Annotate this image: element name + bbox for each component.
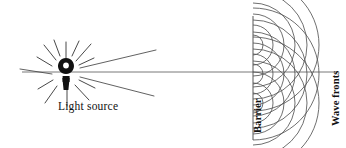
diagram-canvas [0, 0, 346, 148]
huygens-wavefront-diagram: Light source Barrier Wave fronts [0, 0, 346, 148]
barrier-label: Barrier [253, 98, 264, 133]
light-source-glyph [58, 58, 74, 90]
light-source-label: Light source [58, 101, 118, 113]
wave-fronts-label: Wave fronts [331, 71, 342, 126]
light-source-rays-long [20, 50, 156, 96]
